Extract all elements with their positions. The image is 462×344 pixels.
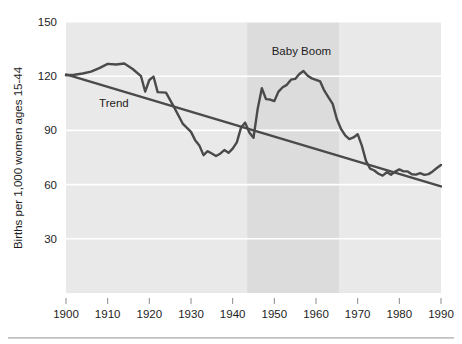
x-tick-label-1990: 1990 xyxy=(428,308,454,320)
x-tick-label-1960: 1960 xyxy=(303,308,329,320)
x-tick-label-1910: 1910 xyxy=(95,308,121,320)
chart-figure: 306090120150 190019101920193019401950196… xyxy=(0,0,462,344)
x-tick-label-1900: 1900 xyxy=(53,308,79,320)
x-tick-label-1950: 1950 xyxy=(262,308,288,320)
y-tick-label-150: 150 xyxy=(38,16,57,28)
baby-boom-shaded-band xyxy=(247,22,339,293)
bottom-rule-divider xyxy=(8,337,454,339)
y-tick-label-30: 30 xyxy=(44,233,57,245)
x-tick-label-1980: 1980 xyxy=(387,308,413,320)
x-tick-label-1930: 1930 xyxy=(178,308,204,320)
y-tick-label-60: 60 xyxy=(44,179,57,191)
x-tick-label-1940: 1940 xyxy=(220,308,246,320)
chart-canvas: 306090120150 190019101920193019401950196… xyxy=(0,0,462,344)
y-tick-label-90: 90 xyxy=(44,124,57,136)
x-tick-label-1970: 1970 xyxy=(345,308,371,320)
chart-svg: 306090120150 190019101920193019401950196… xyxy=(0,0,462,344)
y-axis-title: Births per 1,000 women ages 15-44 xyxy=(12,66,24,249)
trend-annotation-label: Trend xyxy=(99,97,129,109)
baby-boom-annotation-label: Baby Boom xyxy=(272,45,331,57)
x-tick-label-1920: 1920 xyxy=(137,308,163,320)
y-tick-label-120: 120 xyxy=(38,70,57,82)
